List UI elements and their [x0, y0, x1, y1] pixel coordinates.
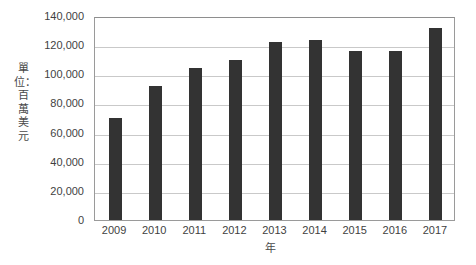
x-tick-label: 2009: [94, 224, 134, 236]
x-tick-label: 2016: [375, 224, 415, 236]
bar: [349, 51, 362, 220]
y-tick-label: 20,000: [0, 185, 84, 197]
y-tick-label: 80,000: [0, 97, 84, 109]
bar: [309, 40, 322, 220]
bar: [189, 68, 202, 220]
x-tick-label: 2017: [415, 224, 455, 236]
bar: [269, 42, 282, 220]
y-tick-label: 60,000: [0, 127, 84, 139]
bar: [429, 28, 442, 220]
y-axis-tick-labels: 020,00040,00060,00080,000100,000120,0001…: [0, 0, 88, 265]
x-tick-label: 2011: [174, 224, 214, 236]
bar: [229, 60, 242, 220]
y-tick-label: 100,000: [0, 68, 84, 80]
y-tick-label: 120,000: [0, 39, 84, 51]
x-tick-label: 2013: [255, 224, 295, 236]
y-tick-label: 140,000: [0, 10, 84, 22]
y-tick-label: 0: [0, 214, 84, 226]
bar: [109, 118, 122, 220]
x-axis-title: 年: [0, 239, 476, 255]
bar: [389, 51, 402, 220]
bar-chart-figure: 單位：百萬美元 020,00040,00060,00080,000100,000…: [0, 0, 476, 265]
y-tick-label: 40,000: [0, 156, 84, 168]
x-tick-label: 2010: [134, 224, 174, 236]
plot-area: [94, 17, 455, 221]
x-axis-title-text: 年: [265, 239, 276, 255]
x-tick-label: 2015: [335, 224, 375, 236]
x-tick-label: 2012: [214, 224, 254, 236]
x-tick-label: 2014: [295, 224, 335, 236]
bars-group: [95, 18, 454, 220]
bar: [149, 86, 162, 220]
x-axis-tick-labels: 200920102011201220132014201520162017: [94, 224, 455, 240]
